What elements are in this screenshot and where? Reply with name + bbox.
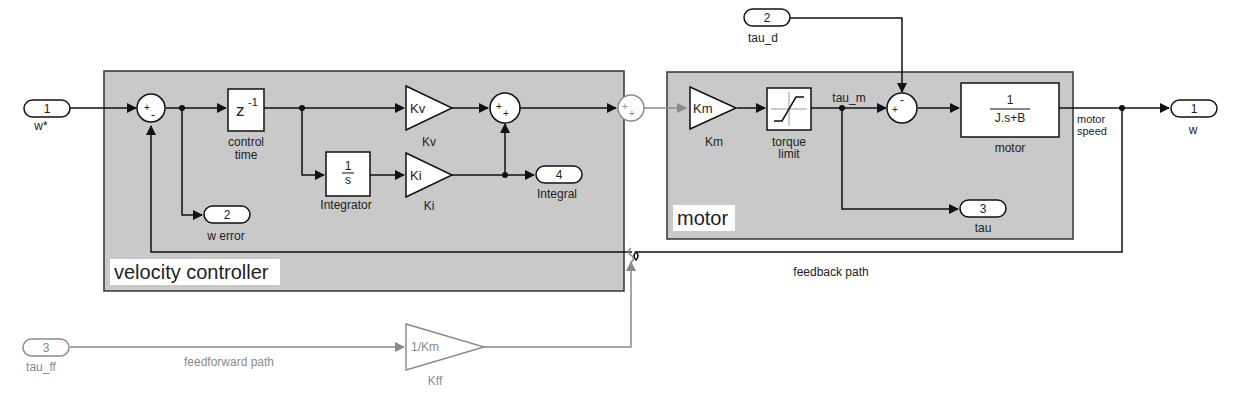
svg-text:-1: -1: [248, 96, 258, 108]
svg-text:3: 3: [43, 341, 50, 355]
motor-speed-label-2: speed: [1077, 125, 1107, 137]
svg-text:Km: Km: [693, 101, 713, 116]
svg-text:s: s: [345, 173, 351, 187]
svg-text:2: 2: [764, 11, 771, 25]
svg-text:1: 1: [1007, 93, 1014, 107]
outport-integral-label: Integral: [537, 187, 577, 201]
motor-speed-label-1: motor: [1077, 113, 1105, 125]
torque-sum-block[interactable]: + -: [887, 93, 917, 123]
outport-w-error-label: w error: [206, 229, 244, 243]
svg-text:+: +: [622, 101, 628, 112]
svg-text:-: -: [900, 93, 904, 107]
svg-text:+: +: [629, 108, 635, 119]
kff-gain-block[interactable]: 1/Km Kff: [406, 324, 484, 388]
svg-text:+: +: [892, 104, 898, 115]
outport-w[interactable]: 1 w: [1171, 100, 1217, 137]
integrator-block[interactable]: 1 s Integrator: [320, 152, 371, 212]
feedback-path-label: feedback path: [793, 265, 868, 279]
error-sum-block[interactable]: + -: [137, 94, 165, 122]
svg-text:z: z: [236, 101, 245, 120]
svg-text:Km: Km: [705, 135, 723, 149]
svg-text:+: +: [144, 102, 150, 113]
svg-text:motor: motor: [995, 141, 1026, 155]
feedforward-sum-block[interactable]: + +: [618, 95, 644, 121]
svg-text:time: time: [235, 148, 258, 162]
svg-text:1: 1: [345, 159, 352, 173]
tau-m-signal-label: tau_m: [832, 91, 865, 105]
inport-tau-ff-label: tau_ff: [26, 360, 56, 374]
svg-text:-: -: [151, 108, 155, 122]
inport-w-star[interactable]: 1 w*: [24, 100, 70, 133]
svg-text:Kff: Kff: [428, 374, 443, 388]
pi-sum-block[interactable]: + +: [490, 93, 520, 123]
svg-text:limit: limit: [778, 147, 800, 161]
svg-text:4: 4: [556, 168, 563, 182]
svg-text:1/Km: 1/Km: [411, 340, 439, 354]
svg-text:Ki: Ki: [410, 168, 422, 183]
velocity-controller-label: velocity controller: [114, 261, 269, 283]
feedforward-path-label: feedforward path: [184, 355, 274, 369]
svg-text:Kv: Kv: [422, 135, 436, 149]
svg-text:2: 2: [224, 208, 231, 222]
outport-tau-label: tau: [975, 221, 992, 235]
svg-text:J.s+B: J.s+B: [995, 111, 1025, 125]
svg-text:1: 1: [1191, 102, 1198, 116]
svg-text:Integrator: Integrator: [320, 198, 371, 212]
inport-tau-d-label: tau_d: [748, 31, 778, 45]
svg-text:+: +: [496, 101, 502, 112]
svg-text:Ki: Ki: [424, 199, 435, 213]
svg-text:Kv: Kv: [410, 101, 426, 116]
svg-text:control: control: [228, 135, 264, 149]
outport-w-label: w: [1188, 123, 1198, 137]
svg-text:+: +: [503, 108, 509, 119]
outport-integral[interactable]: 4 Integral: [536, 166, 582, 201]
inport-tau-d[interactable]: 2 tau_d: [744, 9, 790, 45]
svg-text:3: 3: [980, 202, 987, 216]
inport-w-star-label: w*: [33, 119, 48, 133]
motor-label: motor: [677, 207, 728, 229]
svg-text:1: 1: [44, 102, 51, 116]
inport-tau-ff[interactable]: 3 tau_ff: [23, 339, 69, 374]
